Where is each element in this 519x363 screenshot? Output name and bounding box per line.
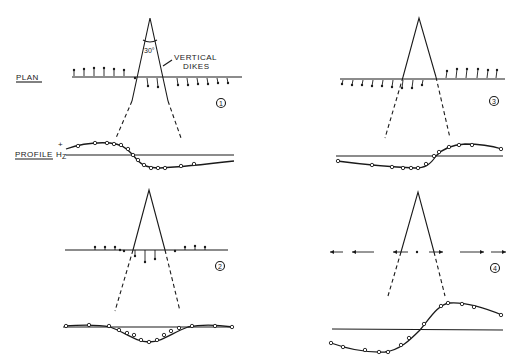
dikes-label: DIKES <box>183 62 210 71</box>
panel-4: 4 <box>329 192 506 354</box>
hz-subscript: Z <box>62 153 67 160</box>
dike-extension-right <box>168 101 181 138</box>
dike-extension-left <box>385 77 403 138</box>
dike-diagram: PLAN PROFILE H Z + 30° VERTICAL DIKES <box>0 0 519 363</box>
panel-number-1-label: 1 <box>219 100 223 107</box>
dike-extension-right <box>434 252 445 296</box>
plan-vectors <box>330 250 506 254</box>
dike-wedge <box>133 190 165 250</box>
dike-extension-left <box>116 101 132 138</box>
profile-label: PROFILE <box>15 150 53 159</box>
dike-extension-right <box>165 250 180 311</box>
profile-baseline <box>332 329 503 330</box>
profile-curve <box>331 303 502 352</box>
vertical-label: VERTICAL <box>174 53 217 62</box>
panel-number-4-label: 4 <box>493 265 497 272</box>
panel-number-2-label: 2 <box>218 263 222 270</box>
dike-extension-left <box>115 250 133 311</box>
leader-line <box>163 60 172 66</box>
angle-label: 30° <box>144 47 155 54</box>
profile-points <box>329 301 502 353</box>
panel-3: 3 <box>336 18 505 170</box>
dike-extension-right <box>436 77 450 138</box>
panel-2: 2 <box>63 190 234 344</box>
dike-wedge <box>403 18 436 77</box>
plus-sign: + <box>58 140 63 149</box>
dike-extension-left <box>388 252 401 296</box>
panel-number-3-label: 3 <box>492 98 496 105</box>
profile-points <box>64 323 233 343</box>
plan-vectors <box>94 245 206 263</box>
plan-label: PLAN <box>16 73 39 82</box>
dike-wedge <box>132 18 168 101</box>
panel-1: 30° VERTICAL DIKES 1 <box>66 18 242 170</box>
dike-wedge <box>401 192 434 252</box>
